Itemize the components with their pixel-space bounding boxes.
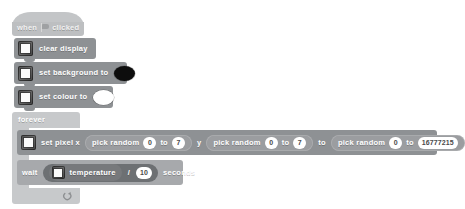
pick-random-x-to-label: to <box>160 139 168 147</box>
reporter-division[interactable]: temperature / 10 <box>43 164 158 182</box>
pick-random-colour-to-input[interactable]: 16777215 <box>418 137 458 149</box>
block-set-pixel[interactable]: set pixel x pick random 0 to 7 y pick ra… <box>17 130 437 155</box>
microbit-device-icon <box>21 135 36 150</box>
block-label-set-background: set background to <box>39 69 108 77</box>
green-flag-icon <box>40 23 49 32</box>
pick-random-x-from-input[interactable]: 0 <box>143 137 156 149</box>
division-right-input[interactable]: 10 <box>136 167 152 179</box>
colour-swatch-pen[interactable] <box>93 90 114 105</box>
block-label-clear-display: clear display <box>39 45 88 53</box>
loop-arrow-icon <box>62 191 72 201</box>
division-operator-label: / <box>128 169 130 177</box>
hat-block-when-flag-clicked[interactable]: when clicked <box>12 12 84 36</box>
microbit-device-icon <box>18 90 33 105</box>
reporter-pick-random-y[interactable]: pick random 0 to 7 <box>206 135 313 151</box>
colour-swatch-background[interactable] <box>114 66 135 81</box>
temperature-label: temperature <box>70 169 116 177</box>
set-pixel-y-label: y <box>197 139 201 147</box>
pick-random-y-label: pick random <box>213 139 260 147</box>
hat-suffix-label: clicked <box>52 24 79 32</box>
block-wait[interactable]: wait temperature / 10 seconds <box>17 160 183 185</box>
pick-random-colour-label: pick random <box>338 139 385 147</box>
hat-prefix-label: when <box>17 24 37 32</box>
reporter-pick-random-colour[interactable]: pick random 0 to 16777215 <box>331 135 465 151</box>
microbit-device-icon <box>18 66 33 81</box>
pick-random-x-label: pick random <box>92 139 139 147</box>
block-label-set-pixel: set pixel x <box>41 139 80 147</box>
pick-random-y-to-label: to <box>282 139 290 147</box>
block-label-forever: forever <box>18 116 45 124</box>
pick-random-y-to-input[interactable]: 7 <box>293 137 306 149</box>
microbit-device-icon <box>52 166 65 179</box>
block-forever[interactable]: forever <box>12 112 80 204</box>
block-label-wait: wait <box>22 169 38 177</box>
reporter-pick-random-x[interactable]: pick random 0 to 7 <box>85 135 192 151</box>
pick-random-x-to-input[interactable]: 7 <box>172 137 185 149</box>
set-pixel-colour-label: to <box>318 139 326 147</box>
pick-random-colour-from-input[interactable]: 0 <box>389 137 402 149</box>
block-clear-display[interactable]: clear display <box>14 38 96 59</box>
block-set-colour[interactable]: set colour to <box>14 86 113 108</box>
hat-block-content: when clicked <box>17 23 79 32</box>
block-label-set-colour: set colour to <box>39 93 87 101</box>
reporter-temperature[interactable]: temperature <box>49 164 122 181</box>
pick-random-colour-to-label: to <box>406 139 414 147</box>
block-set-background[interactable]: set background to <box>14 62 127 84</box>
microbit-device-icon <box>18 41 33 56</box>
block-notch <box>24 108 35 111</box>
wait-suffix-label: seconds <box>163 169 195 177</box>
pick-random-y-from-input[interactable]: 0 <box>265 137 278 149</box>
